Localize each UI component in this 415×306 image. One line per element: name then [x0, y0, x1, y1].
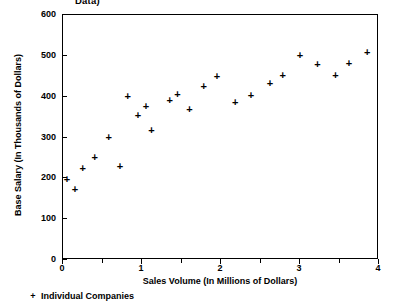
y-tick-label: 500 — [26, 50, 56, 60]
data-point-marker — [265, 79, 274, 88]
data-point-marker — [344, 59, 353, 68]
data-point-marker — [141, 102, 150, 111]
x-minor-tick-mark — [260, 259, 261, 263]
x-axis-title: Sales Volume (In Millions of Dollars) — [62, 276, 378, 286]
legend-plus-icon: + — [28, 291, 38, 301]
legend: +Individual Companies — [28, 291, 134, 301]
data-point-marker — [363, 48, 372, 57]
data-point-marker — [104, 133, 113, 142]
data-point-marker — [231, 98, 240, 107]
y-tick-label: 400 — [26, 91, 56, 101]
scatter-chart-figure: Data) 0100200300400500600 Base Salary (I… — [0, 0, 415, 306]
legend-label: Individual Companies — [41, 291, 134, 301]
data-point-marker — [313, 60, 322, 69]
data-point-marker — [199, 82, 208, 91]
plot-data-layer — [63, 15, 377, 258]
x-tick-label: 2 — [205, 263, 235, 273]
y-tick-label: 100 — [26, 213, 56, 223]
y-tick-label: 600 — [26, 9, 56, 19]
data-point-marker — [90, 153, 99, 162]
data-point-marker — [134, 111, 143, 120]
data-point-marker — [70, 185, 79, 194]
data-point-marker — [62, 175, 71, 184]
x-minor-tick-mark — [181, 259, 182, 263]
chart-title: Data) — [75, 0, 100, 6]
y-tick-label: 300 — [26, 132, 56, 142]
data-point-marker — [147, 126, 156, 135]
x-tick-label: 4 — [363, 263, 393, 273]
x-minor-tick-mark — [102, 259, 103, 263]
plot-area — [62, 14, 378, 259]
data-point-marker — [278, 71, 287, 80]
data-point-marker — [213, 72, 222, 81]
x-tick-label: 0 — [47, 263, 77, 273]
y-axis-title: Base Salary (In Thousands of Dollars) — [13, 20, 23, 250]
y-tick-label: 200 — [26, 172, 56, 182]
x-tick-label: 3 — [284, 263, 314, 273]
data-point-marker — [78, 164, 87, 173]
data-point-marker — [173, 90, 182, 99]
data-point-marker — [115, 162, 124, 171]
x-minor-tick-mark — [339, 259, 340, 263]
data-point-marker — [296, 51, 305, 60]
data-point-marker — [123, 92, 132, 101]
data-point-marker — [331, 71, 340, 80]
x-tick-label: 1 — [126, 263, 156, 273]
data-point-marker — [185, 105, 194, 114]
data-point-marker — [247, 91, 256, 100]
y-axis-tick-labels: 0100200300400500600 — [22, 0, 56, 306]
